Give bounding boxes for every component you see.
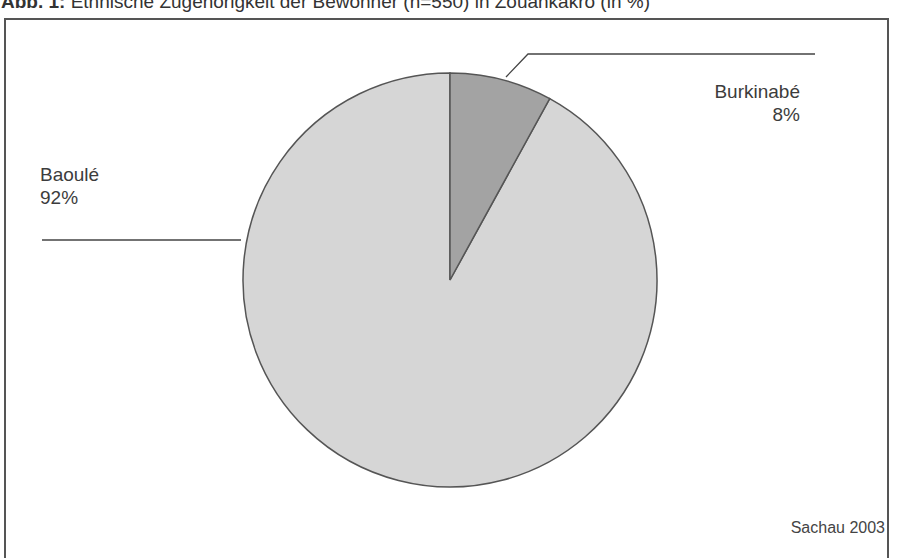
label-burkinabe-name: Burkinabé: [714, 80, 800, 103]
data-label-burkinabe: Burkinabé 8%: [714, 80, 800, 126]
data-label-baoule: Baoulé 92%: [40, 163, 99, 209]
label-baoule-name: Baoulé: [40, 163, 99, 186]
leader-line-burkinabe: [506, 54, 815, 77]
label-baoule-pct: 92%: [40, 186, 99, 209]
source-credit: Sachau 2003: [791, 519, 885, 537]
label-burkinabe-pct: 8%: [714, 103, 800, 126]
